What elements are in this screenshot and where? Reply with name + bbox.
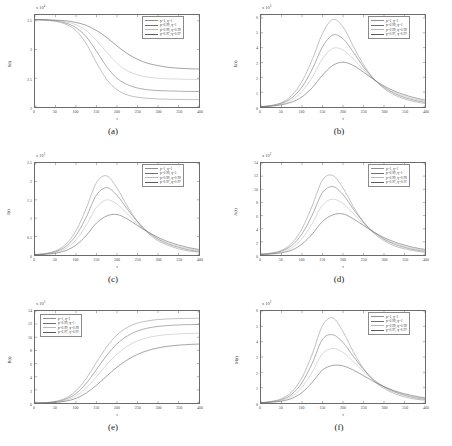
x-tick-label: 400: [197, 109, 203, 114]
legend-label: p=0.97, q=0.97: [160, 180, 181, 185]
x-tick-label: 300: [156, 109, 162, 114]
y-tick-labels: 02468101214: [0, 310, 34, 404]
y-tick-label: 12: [28, 321, 32, 326]
legend-row: p=0.97, q=0.97: [371, 32, 407, 37]
axis-exponent-multiplier: x 103: [262, 4, 271, 10]
x-tick-label: 50: [53, 109, 57, 114]
x-tick-label: 0: [33, 257, 35, 262]
x-tick-label: 150: [93, 109, 99, 114]
y-tick-label: 8: [256, 200, 258, 205]
panel-caption: (e): [0, 422, 226, 432]
x-tick-label: 0: [259, 257, 261, 262]
series-line: [35, 188, 199, 255]
legend-line-swatch: [145, 29, 158, 30]
y-tick-label: 2: [256, 370, 258, 375]
x-tick-label: 250: [135, 405, 141, 410]
y-tick-label: 1: [30, 216, 32, 221]
axis-exponent-multiplier: x 102: [262, 300, 271, 306]
legend-row: p=0.97, q=0.97: [371, 328, 407, 333]
panel-caption: (d): [226, 274, 452, 284]
y-tick-label: 8: [30, 348, 32, 353]
x-tick-label: 300: [156, 405, 162, 410]
legend-line-swatch: [371, 34, 384, 35]
x-tick-label: 0: [33, 405, 35, 410]
y-tick-label: 2: [256, 75, 258, 80]
x-tick-label: 150: [319, 257, 325, 262]
x-tick-label: 400: [423, 257, 429, 262]
panel-caption: (c): [0, 274, 226, 284]
x-tick-label: 100: [299, 109, 305, 114]
legend-line-swatch: [371, 316, 384, 317]
x-tick-label: 250: [361, 257, 367, 262]
plot-legend[interactable]: p=1, q=1p=0.99, q=1p=0.99, q=0.99p=0.97,…: [142, 16, 184, 39]
y-tick-label: 2.5: [27, 160, 32, 165]
legend-line-swatch: [371, 321, 384, 322]
legend-line-swatch: [145, 168, 158, 169]
plot-area-c: x 103I(t)t00.511.522.5050100150200250300…: [0, 148, 226, 276]
x-tick-label: 250: [135, 257, 141, 262]
legend-line-swatch: [371, 29, 384, 30]
y-tick-labels: 00.511.522.5: [0, 162, 34, 256]
x-tick-labels: 050100150200250300350400: [34, 257, 200, 265]
x-tick-label: 250: [361, 109, 367, 114]
legend-label: p=0.97, q=0.97: [386, 328, 407, 333]
legend-line-swatch: [145, 177, 158, 178]
plot-legend[interactable]: p=1, q=1p=0.99, q=1p=0.99, q=0.99p=0.97,…: [142, 164, 184, 187]
plot-legend[interactable]: p=1, q=1p=0.99, q=1p=0.99, q=0.99p=0.97,…: [40, 314, 82, 337]
x-tick-label: 200: [340, 257, 346, 262]
x-tick-label: 50: [53, 257, 57, 262]
x-tick-label: 50: [279, 109, 283, 114]
x-tick-label: 0: [259, 109, 261, 114]
y-tick-label: 3.5: [27, 17, 32, 22]
y-tick-label: 10: [254, 186, 258, 191]
legend-line-swatch: [371, 182, 384, 183]
legend-line-swatch: [43, 323, 56, 324]
x-tick-label: 400: [197, 405, 203, 410]
panel-e: x 103R(t)t024681012140501001502002503003…: [0, 296, 226, 444]
plot-legend[interactable]: p=1, q=1p=0.99, q=1p=0.99, q=0.99p=0.97,…: [368, 312, 410, 335]
plot-legend[interactable]: p=1, q=1p=0.99, q=1p=0.99, q=0.99p=0.97,…: [368, 16, 410, 39]
x-tick-label: 100: [73, 257, 79, 262]
series-line: [261, 349, 425, 403]
panel-d: x 102A(t)t024681012140501001502002503003…: [226, 148, 452, 296]
x-tick-label: 150: [319, 109, 325, 114]
legend-line-swatch: [145, 34, 158, 35]
legend-label: p=0.97, q=0.97: [58, 330, 79, 335]
legend-label: p=0.97, q=0.97: [386, 32, 407, 37]
y-tick-label: 3: [256, 60, 258, 65]
x-tick-label: 350: [176, 109, 182, 114]
legend-row: p=0.97, q=0.97: [371, 180, 407, 185]
series-line: [35, 200, 199, 255]
plot-area-a: x 104S(t)t22.533.50501001502002503003504…: [0, 0, 226, 128]
plot-area-b: x 103E(t)t012345605010015020025030035040…: [226, 0, 452, 128]
panel-caption: (b): [226, 126, 452, 136]
plot-area-d: x 102A(t)t024681012140501001502002503003…: [226, 148, 452, 276]
x-tick-labels: 050100150200250300350400: [34, 405, 200, 413]
legend-line-swatch: [371, 173, 384, 174]
y-tick-labels: 0123456: [226, 310, 260, 404]
x-tick-label: 300: [382, 109, 388, 114]
panel-f: x 102M(t)t012345605010015020025030035040…: [226, 296, 452, 444]
legend-line-swatch: [43, 327, 56, 328]
x-tick-label: 250: [135, 109, 141, 114]
y-tick-label: 0: [30, 254, 32, 259]
y-tick-label: 5: [256, 30, 258, 35]
x-tick-label: 200: [114, 405, 120, 410]
x-tick-label: 50: [53, 405, 57, 410]
x-tick-label: 200: [340, 405, 346, 410]
x-tick-labels: 050100150200250300350400: [34, 109, 200, 117]
axis-exponent-multiplier: x 103: [36, 152, 45, 158]
legend-line-swatch: [145, 173, 158, 174]
x-tick-label: 150: [93, 405, 99, 410]
y-tick-label: 2: [30, 106, 32, 111]
panel-caption: (f): [226, 422, 452, 432]
panel-c: x 103I(t)t00.511.522.5050100150200250300…: [0, 148, 226, 296]
legend-label: p=0.97, q=0.97: [160, 32, 181, 37]
plot-legend[interactable]: p=1, q=1p=0.99, q=1p=0.99, q=0.99p=0.97,…: [368, 164, 410, 187]
x-tick-label: 350: [402, 257, 408, 262]
series-line: [35, 176, 199, 255]
plot-area-e: x 103R(t)t024681012140501001502002503003…: [0, 296, 226, 424]
x-tick-label: 400: [423, 405, 429, 410]
legend-label: p=0.97, q=0.97: [386, 180, 407, 185]
y-tick-label: 4: [30, 375, 32, 380]
